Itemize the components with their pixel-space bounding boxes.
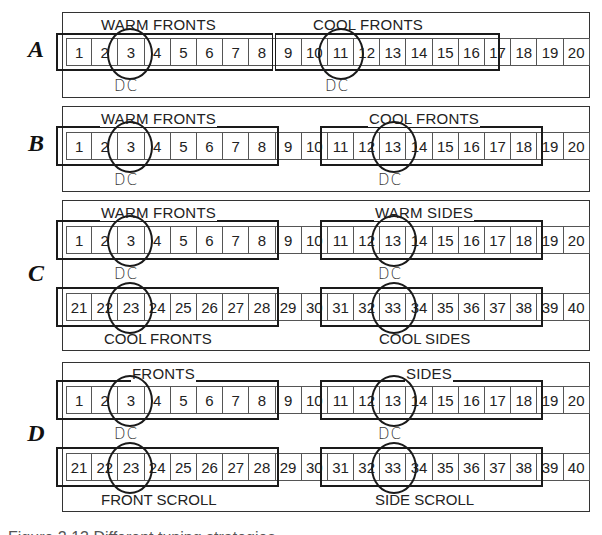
channel-cell-9: 9 bbox=[276, 132, 302, 160]
panel-c-dc-label-2: DC bbox=[378, 265, 402, 283]
panel-a-dc-circle-11 bbox=[318, 28, 364, 80]
panel-a-dc-label-1: DC bbox=[114, 77, 138, 95]
panel-b-dc-label-2: DC bbox=[378, 171, 402, 189]
panel-a-dc-label-2: DC bbox=[325, 77, 349, 95]
panel-d-sides-bracket bbox=[320, 380, 543, 420]
figure-caption: Figure 2.13 Different tuning strategies bbox=[0, 527, 602, 535]
panel-b-cool-fronts-bracket bbox=[320, 126, 543, 166]
channel-cell-18: 18 bbox=[511, 38, 537, 66]
panel-c-cool-fronts-label: COOL FRONTS bbox=[104, 331, 212, 347]
panel-c-warm-sides-bracket bbox=[320, 220, 543, 260]
panel-b-dc-circle-3 bbox=[107, 121, 153, 173]
panel-c-dc-circle-33 bbox=[371, 282, 417, 334]
panel-c-letter: C bbox=[22, 260, 50, 287]
channel-cell-29: 29 bbox=[276, 293, 302, 321]
panel-b-warm-fronts-bracket bbox=[56, 126, 279, 166]
panel-d-sides-label: SIDES bbox=[405, 366, 453, 382]
panel-b-dc-label-1: DC bbox=[114, 171, 138, 189]
panel-c-warm-fronts-bracket bbox=[56, 220, 279, 260]
panel-c-dc-circle-23 bbox=[107, 282, 153, 334]
channel-cell-20: 20 bbox=[564, 226, 590, 254]
panel-c-dc-circle-13 bbox=[371, 215, 417, 267]
panel-d-letter: D bbox=[22, 420, 50, 447]
panel-d-fronts-bracket bbox=[56, 380, 279, 420]
panel-b-dc-circle-13 bbox=[371, 121, 417, 173]
channel-cell-9: 9 bbox=[276, 226, 302, 254]
panel-c-dc-label-1: DC bbox=[114, 265, 138, 283]
panel-c-dc-circle-3 bbox=[107, 215, 153, 267]
panel-d-dc-circle-33 bbox=[371, 442, 417, 494]
channel-cell-29: 29 bbox=[276, 453, 302, 481]
figure-caption-text: Figure 2.13 Different tuning strategies bbox=[0, 529, 602, 535]
channel-cell-20: 20 bbox=[564, 386, 590, 414]
panel-a-letter: A bbox=[22, 36, 50, 63]
panel-a-dc-circle-3 bbox=[107, 28, 153, 80]
panel-d-dc-circle-13 bbox=[371, 375, 417, 427]
panel-d-dc-label-1: DC bbox=[114, 425, 138, 443]
panel-d-dc-label-2: DC bbox=[378, 425, 402, 443]
panel-d-side-scroll-label: SIDE SCROLL bbox=[375, 492, 474, 508]
panel-c-cool-sides-bracket bbox=[320, 287, 543, 327]
channel-cell-19: 19 bbox=[537, 38, 563, 66]
panel-d-side-scroll-bracket bbox=[320, 447, 543, 487]
channel-cell-40: 40 bbox=[564, 293, 590, 321]
channel-cell-9: 9 bbox=[276, 386, 302, 414]
panel-a-warm-fronts-bracket bbox=[56, 33, 273, 71]
channel-cell-20: 20 bbox=[564, 38, 590, 66]
panel-d-dc-circle-23 bbox=[107, 442, 153, 494]
panel-d-dc-circle-3 bbox=[107, 375, 153, 427]
panel-c-cool-fronts-bracket bbox=[56, 287, 279, 327]
panel-d-front-scroll-bracket bbox=[56, 447, 279, 487]
panel-a-cool-fronts-bracket bbox=[275, 33, 500, 71]
channel-cell-40: 40 bbox=[564, 453, 590, 481]
panel-d-front-scroll-label: FRONT SCROLL bbox=[101, 492, 217, 508]
panel-b-letter: B bbox=[22, 130, 50, 157]
channel-cell-20: 20 bbox=[564, 132, 590, 160]
